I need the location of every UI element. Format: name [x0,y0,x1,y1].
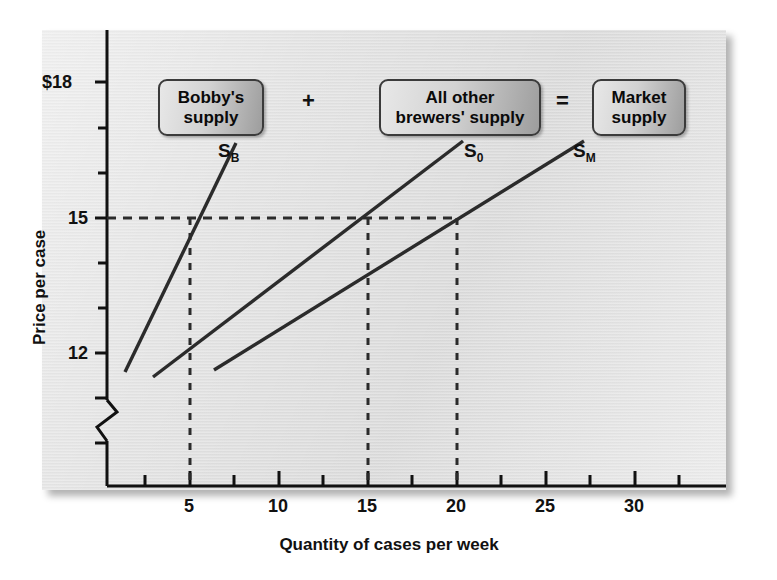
y-axis-title: Price per case [30,230,50,345]
y-tick-label-12: 12 [68,343,88,364]
callout-market-line2: supply [612,108,667,127]
callout-market-supply: Market supply [592,79,686,136]
curve-bobbys-supply [125,143,236,372]
curve-label-sb-main: S [218,140,231,161]
curve-label-sb-sub: B [231,151,240,165]
curve-label-sm: SM [573,140,596,165]
callout-all-other-brewers-supply: All other brewers' supply [379,79,541,136]
curve-label-s0: S0 [464,140,483,165]
curve-label-s0-sub: 0 [477,151,484,165]
curve-label-s0-main: S [464,140,477,161]
curve-label-sm-main: S [573,140,586,161]
y-axis-break [97,400,117,441]
callout-all-other-line1: All other [396,88,525,107]
callout-bobbys-line2: supply [178,108,244,127]
y-tick-label-18: $18 [42,72,72,93]
x-tick-label-10: 10 [268,496,288,517]
callout-all-other-line2: brewers' supply [396,108,525,127]
y-tick-label-15: 15 [68,208,88,229]
curve-market-supply [214,141,584,370]
x-tick-label-20: 20 [446,496,466,517]
callout-bobbys-line1: Bobby's [178,88,244,107]
x-tick-label-25: 25 [535,496,555,517]
x-tick-label-5: 5 [184,496,194,517]
x-tick-label-30: 30 [624,496,644,517]
operator-equals-icon: = [556,88,569,114]
x-tick-label-15: 15 [357,496,377,517]
x-axis-title: Quantity of cases per week [224,535,554,555]
callout-bobbys-supply: Bobby's supply [158,79,264,136]
x-minor-ticks [145,475,679,486]
supply-curve-figure: $18 15 12 Price per case 5 10 15 20 25 3… [0,0,777,580]
callout-market-line1: Market [612,88,667,107]
curve-label-sm-sub: M [586,151,596,165]
curve-label-sb: SB [218,140,239,165]
curve-all-other-brewers-supply [153,141,463,377]
operator-plus-icon: + [302,88,315,114]
